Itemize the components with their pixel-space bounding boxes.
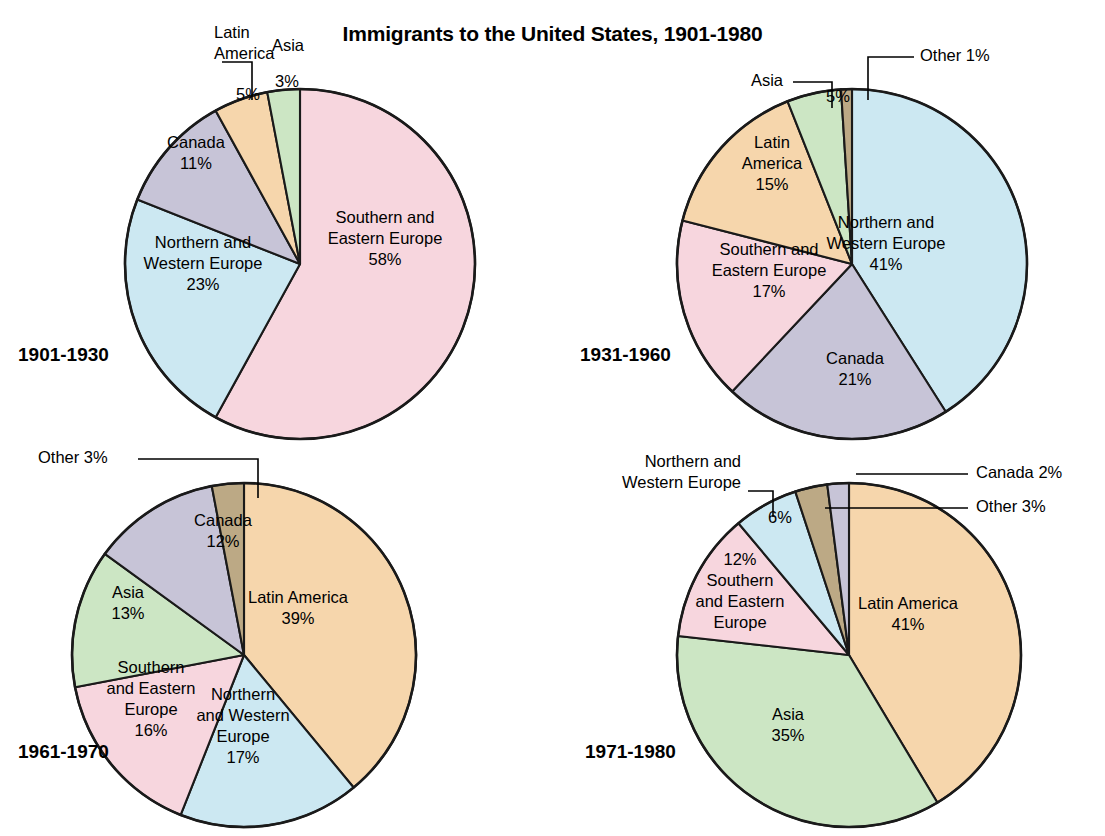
slice-label-asia-value: 3% bbox=[275, 72, 299, 90]
callout-label-latin-america: LatinAmerica bbox=[214, 23, 275, 62]
period-label-1931-1960: 1931-1960 bbox=[580, 344, 671, 366]
callout-label-asia: Asia bbox=[751, 71, 784, 89]
callout-label-northern-western-europe: Northern andWestern Europe bbox=[622, 452, 741, 491]
figure-root: Immigrants to the United States, 1901-19… bbox=[0, 0, 1105, 836]
period-label-1971-1980: 1971-1980 bbox=[585, 741, 676, 763]
period-label-1901-1930: 1901-1930 bbox=[18, 344, 109, 366]
pie-slices bbox=[72, 483, 416, 827]
pie-chart-1971-1980: Latin America41%Asia35%12%Southernand Ea… bbox=[553, 440, 1105, 836]
callout-label-other: Other 3% bbox=[38, 448, 108, 466]
period-label-1961-1970: 1961-1970 bbox=[18, 741, 109, 763]
slice-label-asia-value: 5% bbox=[826, 87, 850, 105]
pie-panel-1901-1930: Southern andEastern Europe58%Northern an… bbox=[0, 0, 553, 440]
slice-label-latin-america-value: 5% bbox=[236, 85, 260, 103]
callout-label-asia: Asia bbox=[272, 36, 305, 54]
pie-panel-1961-1970: Latin America39%Northernand WesternEurop… bbox=[0, 440, 553, 836]
pie-panel-1931-1960: Northern andWestern Europe41%Canada21%So… bbox=[553, 0, 1105, 440]
pie-chart-1901-1930: Southern andEastern Europe58%Northern an… bbox=[0, 0, 553, 440]
pie-panel-1971-1980: Latin America41%Asia35%12%Southernand Ea… bbox=[553, 440, 1105, 836]
slice-label-northern-western-europe-value: 6% bbox=[768, 508, 792, 526]
callout-label-canada: Canada 2% bbox=[976, 463, 1063, 481]
pie-chart-1931-1960: Northern andWestern Europe41%Canada21%So… bbox=[553, 0, 1105, 440]
pie-slices bbox=[677, 483, 1021, 827]
callout-label-other: Other 1% bbox=[920, 46, 990, 64]
callout-label-other: Other 3% bbox=[976, 497, 1046, 515]
pie-chart-1961-1970: Latin America39%Northernand WesternEurop… bbox=[0, 440, 553, 836]
